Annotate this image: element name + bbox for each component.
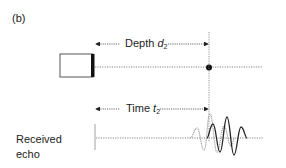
depth-text: Depth	[125, 37, 157, 49]
time-text: Time	[126, 102, 153, 114]
depth-subscript: 2	[164, 43, 168, 50]
panel-label: (b)	[12, 12, 25, 25]
transducer-face	[91, 54, 95, 77]
depth-label: Depth d2	[125, 37, 167, 53]
transducer	[60, 54, 95, 77]
reflector-point	[206, 65, 212, 71]
echo-label-line2: echo	[16, 147, 62, 162]
time-label: Time t2	[126, 102, 160, 118]
time-subscript: 2	[156, 108, 160, 115]
echo-label-line1: Received	[16, 132, 62, 147]
received-echo-label: Received echo	[16, 132, 62, 162]
